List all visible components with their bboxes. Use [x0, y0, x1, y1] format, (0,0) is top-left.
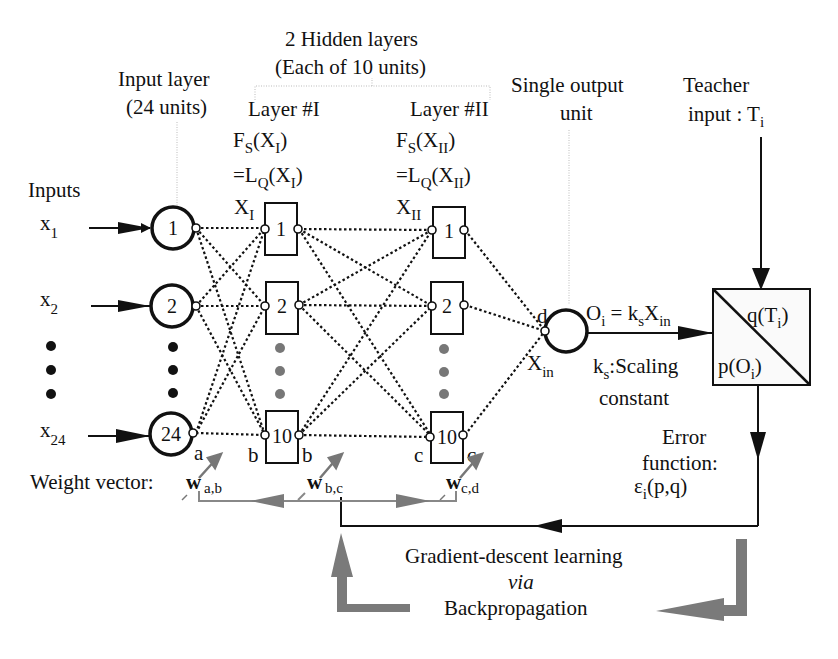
error-title: Error	[662, 425, 706, 449]
scaling-constant-desc: constant	[599, 386, 669, 410]
svg-text:24: 24	[161, 423, 181, 445]
svg-text:1: 1	[168, 217, 178, 239]
connections-layer-two-to-output	[465, 230, 545, 435]
input-node-ellipsis	[168, 342, 178, 398]
svg-text:c,d: c,d	[461, 480, 479, 496]
hidden-one-ellipsis	[275, 343, 285, 399]
input-node-1: 1	[152, 207, 200, 249]
port-label-c-left: c	[414, 443, 423, 467]
diagonal-arrow-icon	[320, 454, 342, 478]
output-unit-subtitle: unit	[560, 101, 593, 125]
layer-one-formula-f: FS(XI)	[233, 128, 287, 156]
output-unit-title: Single output	[511, 73, 624, 97]
hidden-two-ellipsis	[439, 344, 449, 399]
output-port	[192, 302, 200, 310]
error-epsilon: εi(p,q)	[634, 474, 687, 502]
layer-two-x-label: XII	[396, 195, 421, 223]
svg-text:10: 10	[272, 425, 292, 447]
svg-text:b,c: b,c	[325, 480, 343, 496]
hidden-layers-header: 2 Hidden layers (Each of 10 units)	[255, 27, 490, 100]
ellipsis-dot	[46, 341, 56, 351]
hidden-two-node-2: 2	[428, 282, 468, 334]
input-x24-label: x24	[40, 418, 66, 448]
input-layer-subtitle: (24 units)	[126, 95, 207, 119]
input-port	[541, 327, 549, 335]
learning-line1: Gradient-descent learning	[405, 544, 623, 568]
svg-text:2: 2	[277, 295, 287, 317]
svg-text:w: w	[186, 470, 202, 494]
arrowhead-icon	[396, 494, 430, 508]
arrowhead-icon	[118, 300, 150, 312]
learning-caption: Gradient-descent learning via Backpropag…	[405, 544, 623, 620]
arrowhead-icon	[534, 519, 562, 533]
layer-two-title: Layer #II	[410, 97, 489, 121]
input-x24: x24	[40, 418, 150, 448]
arrowhead-icon	[752, 268, 770, 290]
svg-text:2: 2	[167, 295, 177, 317]
input-layer-title: Input layer	[118, 67, 210, 91]
p-function: p(Oi)	[718, 354, 762, 382]
neuron-circle	[545, 310, 587, 352]
connections-input-to-layer-one	[196, 228, 265, 435]
hidden-layers-subtitle: (Each of 10 units)	[275, 55, 426, 79]
arrowhead-icon	[118, 222, 150, 234]
teacher-title: Teacher	[683, 73, 749, 97]
svg-text:w: w	[307, 470, 323, 494]
hidden-one-node-10: 10	[261, 411, 303, 463]
port-label-b-right: b	[302, 443, 313, 467]
input-x2-label: x2	[40, 287, 58, 317]
port-label-d: d	[537, 304, 548, 328]
weight-vector-label: Weight vector:	[30, 470, 154, 494]
hidden-one-node-1: 1	[261, 203, 302, 255]
hidden-one-node-2: 2	[261, 282, 303, 334]
svg-text:a,b: a,b	[204, 480, 222, 496]
output-port	[192, 224, 200, 232]
svg-text:w: w	[446, 470, 462, 494]
hidden-two-node-10: 10	[426, 412, 467, 463]
input-x1: x1	[40, 211, 150, 241]
layer-one-x-label: XI	[234, 195, 254, 223]
arrowhead-icon	[750, 432, 766, 460]
arrowhead-icon	[250, 494, 284, 508]
svg-text:1: 1	[276, 218, 286, 240]
svg-text:2: 2	[442, 295, 452, 317]
port-label-a: a	[194, 441, 204, 465]
svg-text:Oi = ksXin: Oi = ksXin	[586, 301, 671, 329]
layer-two-formula-f: FS(XII)	[396, 128, 455, 156]
port-label-b-left: b	[248, 443, 259, 467]
output-port	[189, 429, 197, 437]
svg-text:1: 1	[444, 220, 454, 242]
teacher-comparator: q(Ti) p(Oi)	[713, 137, 810, 385]
output-equation: Oi = ksXin ks:Scaling constant	[586, 301, 713, 410]
ellipsis-dot	[46, 389, 56, 399]
layer-one-formula-l: =LQ(XI)	[233, 163, 303, 191]
input-layer-header: Input layer (24 units)	[118, 67, 210, 205]
teacher-subtitle: input : Ti	[688, 102, 764, 130]
q-function: q(Ti)	[747, 303, 789, 331]
error-function: Error function: εi(p,q)	[341, 385, 766, 533]
ellipsis-dot	[46, 365, 56, 375]
input-ellipsis	[46, 341, 56, 399]
output-x-in-label: Xin	[527, 351, 554, 380]
up-arrow-icon	[331, 533, 410, 612]
input-node-24: 24	[150, 413, 197, 455]
left-arrow-icon	[656, 539, 747, 621]
error-subtitle: function:	[642, 451, 718, 475]
hidden-layers-title: 2 Hidden layers	[285, 27, 418, 51]
teacher-header: Teacher input : Ti	[683, 73, 764, 130]
learning-line3: Backpropagation	[444, 596, 588, 620]
scaling-constant-label: ks:Scaling	[593, 354, 679, 382]
connections-layer-one-to-layer-two	[299, 229, 432, 437]
input-x2: x2	[40, 287, 150, 317]
output-unit-header: Single output unit	[511, 73, 624, 305]
input-node-2: 2	[151, 285, 200, 327]
neural-network-diagram: 2 Hidden layers (Each of 10 units) Input…	[0, 0, 838, 659]
svg-text:10: 10	[437, 426, 457, 448]
input-x1-label: x1	[40, 211, 58, 241]
layer-two-formula-l: =LQ(XII)	[396, 163, 471, 191]
arrowhead-icon	[116, 429, 150, 443]
layer-two-header: Layer #II FS(XII) =LQ(XII) XII	[396, 97, 489, 223]
inputs-heading: Inputs	[28, 178, 81, 202]
layer-one-title: Layer #I	[248, 97, 320, 121]
learning-line2: via	[508, 570, 534, 594]
